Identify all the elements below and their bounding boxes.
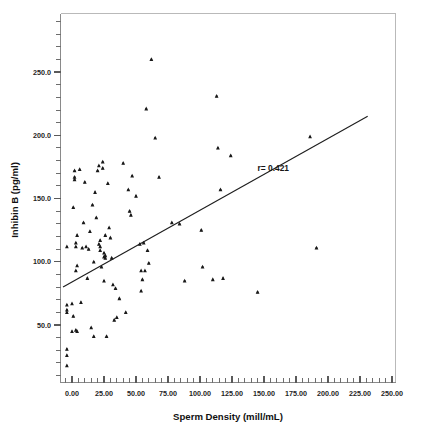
x-tick-label: 200.00 bbox=[317, 389, 339, 398]
y-tick-label: 50.0 bbox=[37, 321, 51, 330]
scatter-plot-figure: 50.0100.0150.0200.0250.0 0.0025.0050.007… bbox=[0, 0, 423, 433]
x-tick-label: 100.00 bbox=[189, 389, 211, 398]
y-tick-label: 150.0 bbox=[33, 194, 51, 203]
x-axis-title: Sperm Density (mill/mL) bbox=[173, 411, 283, 422]
x-tick-label: 75.00 bbox=[159, 389, 177, 398]
y-tick-label: 200.0 bbox=[33, 131, 51, 140]
figure-background bbox=[0, 0, 423, 433]
y-axis-title: Inhibin B (pg/ml) bbox=[9, 162, 20, 238]
y-tick-label: 100.0 bbox=[33, 257, 51, 266]
x-tick-label: 125.00 bbox=[221, 389, 243, 398]
x-tick-label: 250.00 bbox=[381, 389, 403, 398]
x-tick-label: 50.00 bbox=[127, 389, 145, 398]
x-tick-label: 0.00 bbox=[65, 389, 79, 398]
correlation-annotation: r= 0.421 bbox=[258, 163, 290, 173]
x-tick-label: 25.00 bbox=[95, 389, 113, 398]
x-tick-label: 150.00 bbox=[253, 389, 275, 398]
y-tick-label: 250.0 bbox=[33, 68, 51, 77]
x-tick-label: 225.00 bbox=[349, 389, 371, 398]
plot-canvas: 50.0100.0150.0200.0250.0 0.0025.0050.007… bbox=[0, 0, 423, 433]
x-tick-label: 175.00 bbox=[285, 389, 307, 398]
